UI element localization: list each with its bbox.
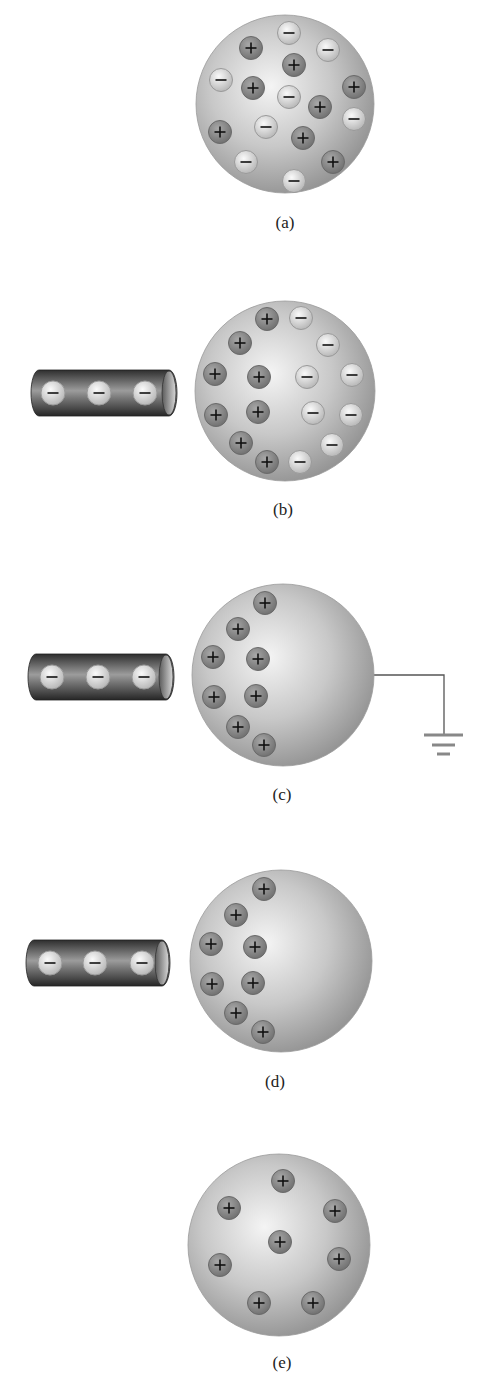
negative-charge-icon (255, 116, 278, 139)
negative-charge-icon (41, 381, 65, 405)
panel-label-a: (a) (255, 213, 315, 233)
panel-b (31, 301, 375, 481)
negative-charge-icon (343, 108, 366, 131)
positive-charge-icon (324, 1200, 347, 1223)
negative-charge-icon (302, 402, 325, 425)
positive-charge-icon (200, 933, 223, 956)
positive-charge-icon (292, 127, 315, 150)
positive-charge-icon (227, 716, 250, 739)
ground-symbol-icon (424, 735, 463, 754)
panel-label-b: (b) (253, 500, 313, 520)
positive-charge-icon (227, 618, 250, 641)
negative-charge-icon (86, 665, 110, 689)
conducting-sphere (195, 301, 375, 481)
positive-charge-icon (209, 121, 232, 144)
negative-charge-icon (317, 334, 340, 357)
positive-charge-icon (252, 1021, 275, 1044)
diagram-canvas (0, 0, 480, 1392)
negative-charge-icon (321, 434, 344, 457)
negative-charge-icon (87, 381, 111, 405)
positive-charge-icon (225, 1002, 248, 1025)
negative-charge-icon (38, 951, 62, 975)
positive-charge-icon (202, 646, 225, 669)
positive-charge-icon (256, 451, 279, 474)
positive-charge-icon (218, 1197, 241, 1220)
positive-charge-icon (302, 1292, 325, 1315)
positive-charge-icon (204, 363, 227, 386)
panel-a (196, 15, 374, 193)
positive-charge-icon (269, 1231, 292, 1254)
positive-charge-icon (229, 332, 252, 355)
positive-charge-icon (230, 432, 253, 455)
negative-charge-icon (235, 151, 258, 174)
positive-charge-icon (253, 878, 276, 901)
positive-charge-icon (248, 1292, 271, 1315)
positive-charge-icon (203, 686, 226, 709)
positive-charge-icon (283, 54, 306, 77)
rod-open-end (155, 941, 169, 985)
panel-label-d: (d) (245, 1072, 305, 1092)
negative-charge-icon (40, 665, 64, 689)
positive-charge-icon (328, 1248, 351, 1271)
positive-charge-icon (247, 401, 270, 424)
charged-rod (26, 940, 170, 986)
positive-charge-icon (244, 936, 267, 959)
positive-charge-icon (242, 972, 265, 995)
ground-connection (373, 675, 463, 754)
charged-rod (31, 370, 177, 416)
charging-by-induction-diagram: (a) (b) (c) (d) (e) (0, 0, 480, 1392)
positive-charge-icon (248, 366, 271, 389)
positive-charge-icon (225, 904, 248, 927)
panel-label-c: (c) (252, 785, 312, 805)
conducting-sphere (190, 870, 372, 1052)
positive-charge-icon (272, 1170, 295, 1193)
positive-charge-icon (242, 77, 265, 100)
negative-charge-icon (317, 39, 340, 62)
panel-e (188, 1154, 370, 1336)
positive-charge-icon (343, 76, 366, 99)
negative-charge-icon (278, 22, 301, 45)
positive-charge-icon (309, 96, 332, 119)
negative-charge-icon (289, 451, 312, 474)
negative-charge-icon (132, 665, 156, 689)
positive-charge-icon (205, 404, 228, 427)
positive-charge-icon (322, 151, 345, 174)
positive-charge-icon (209, 1254, 232, 1277)
positive-charge-icon (201, 973, 224, 996)
positive-charge-icon (254, 592, 277, 615)
rod-open-end (159, 655, 173, 699)
rod-open-end (162, 371, 176, 415)
negative-charge-icon (133, 381, 157, 405)
negative-charge-icon (130, 951, 154, 975)
ground-wire (373, 675, 444, 735)
negative-charge-icon (210, 69, 233, 92)
panel-d (26, 870, 372, 1052)
positive-charge-icon (247, 648, 270, 671)
panel-label-e: (e) (252, 1353, 312, 1373)
positive-charge-icon (245, 685, 268, 708)
positive-charge-icon (253, 734, 276, 757)
negative-charge-icon (83, 951, 107, 975)
negative-charge-icon (278, 86, 301, 109)
positive-charge-icon (240, 37, 263, 60)
negative-charge-icon (341, 364, 364, 387)
conducting-sphere (192, 584, 374, 766)
negative-charge-icon (296, 366, 319, 389)
negative-charge-icon (290, 307, 313, 330)
charged-rod (28, 654, 174, 700)
panel-c (28, 584, 463, 766)
negative-charge-icon (340, 404, 363, 427)
positive-charge-icon (256, 308, 279, 331)
negative-charge-icon (283, 170, 306, 193)
